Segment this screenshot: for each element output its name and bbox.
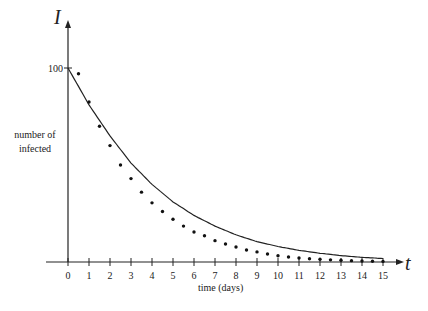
x-tick-label: 2 <box>108 270 113 281</box>
data-point <box>234 245 237 248</box>
data-point <box>360 259 363 262</box>
x-tick-label: 11 <box>294 270 304 281</box>
data-point <box>255 250 258 253</box>
data-point <box>318 258 321 261</box>
y-axis-label-text: number of infected <box>14 129 55 154</box>
x-tick-label: 13 <box>336 270 346 281</box>
x-axis-symbol: t <box>405 252 411 275</box>
data-point <box>140 190 143 193</box>
data-point <box>329 258 332 261</box>
data-point <box>77 72 80 75</box>
y-axis-symbol: I <box>54 6 61 29</box>
data-point <box>161 210 164 213</box>
data-point <box>119 163 122 166</box>
data-point <box>213 239 216 242</box>
x-tick-label: 4 <box>150 270 155 281</box>
model-curve <box>68 68 383 259</box>
x-tick-label: 9 <box>255 270 260 281</box>
y-axis-arrow-icon <box>65 20 71 28</box>
data-point <box>350 259 353 262</box>
data-point <box>308 257 311 260</box>
data-point <box>276 254 279 257</box>
x-tick-label: 10 <box>273 270 283 281</box>
data-point <box>266 252 269 255</box>
data-point <box>150 201 153 204</box>
x-tick-label: 14 <box>357 270 367 281</box>
x-axis-label: time (days) <box>198 282 243 293</box>
data-point <box>87 100 90 103</box>
data-point <box>98 125 101 128</box>
x-tick-label: 6 <box>192 270 197 281</box>
data-point <box>245 248 248 251</box>
x-tick-label: 12 <box>315 270 325 281</box>
data-point <box>371 260 374 263</box>
x-tick-label: 1 <box>87 270 92 281</box>
data-point <box>171 218 174 221</box>
x-tick-label: 3 <box>129 270 134 281</box>
x-axis-arrow-icon <box>396 259 404 265</box>
x-tick-label: 5 <box>171 270 176 281</box>
data-point <box>287 255 290 258</box>
data-point <box>339 259 342 262</box>
y-tick-label: 100 <box>48 63 63 74</box>
x-tick-label: 8 <box>234 270 239 281</box>
data-point <box>203 234 206 237</box>
data-point <box>192 230 195 233</box>
x-tick-label: 15 <box>378 270 388 281</box>
data-point <box>129 177 132 180</box>
data-point <box>381 260 384 263</box>
data-point <box>297 256 300 259</box>
x-tick-label: 7 <box>213 270 218 281</box>
x-tick-label: 0 <box>66 270 71 281</box>
data-point <box>182 224 185 227</box>
data-point <box>108 144 111 147</box>
data-point <box>224 242 227 245</box>
y-axis-label: number of infected <box>4 128 66 156</box>
